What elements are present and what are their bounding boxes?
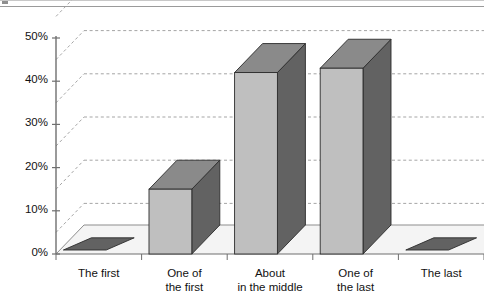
y-tick-label: 50%	[6, 30, 48, 42]
gridline-leader	[56, 0, 84, 16]
gridline-leader	[56, 203, 84, 232]
y-tick-label: 40%	[6, 73, 48, 85]
gridline-leader	[56, 117, 84, 146]
gridline-leader	[56, 160, 84, 189]
y-tick-label: 20%	[6, 160, 48, 172]
chart-3d-bar: 0%10%20%30%40%50% The firstOne of the fi…	[0, 0, 484, 301]
bar-front-face	[320, 68, 363, 254]
bar-side-face	[277, 44, 305, 254]
bar-2	[235, 44, 306, 254]
y-tick-label: 30%	[6, 116, 48, 128]
y-tick-label: 0%	[6, 246, 48, 258]
plot-canvas	[0, 0, 484, 301]
bar-front-face	[235, 73, 278, 254]
x-category-label: The last	[385, 266, 484, 280]
bars-group	[63, 39, 476, 254]
y-tick-label: 10%	[6, 203, 48, 215]
bar-3	[320, 39, 391, 254]
bar-side-face	[363, 39, 391, 254]
gridline-leader	[56, 74, 84, 103]
gridline-leader	[56, 31, 84, 60]
bar-front-face	[149, 189, 192, 254]
x-tick-marks	[56, 254, 484, 260]
